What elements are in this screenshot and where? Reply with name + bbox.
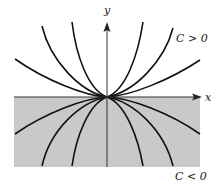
y-axis-label: y (103, 4, 111, 17)
lower-region-label: C < 0 (175, 170, 207, 183)
upper-curve-3 (72, 22, 107, 97)
x-axis-label: x (205, 91, 212, 104)
upper-region-label: C > 0 (176, 32, 208, 45)
upper-curve-4 (107, 22, 143, 97)
curve-family-diagram: y x C > 0 C < 0 (0, 0, 221, 191)
